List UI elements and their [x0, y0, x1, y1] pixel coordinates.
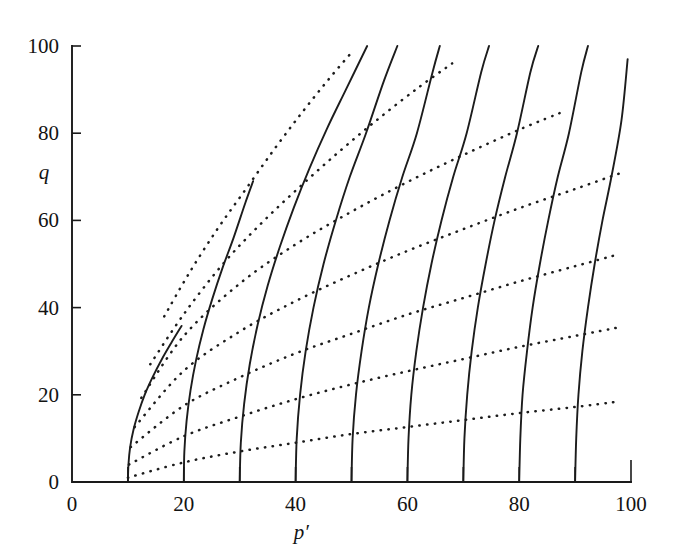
y-tick-label-100: 100: [28, 34, 60, 58]
x-tick-label-60: 60: [397, 492, 418, 516]
axis-lines: [72, 46, 631, 482]
x-tick-label-80: 80: [509, 492, 530, 516]
x-tick-label-40: 40: [285, 492, 306, 516]
stress-path-curve: [184, 181, 253, 482]
constant-volume-line: [129, 327, 620, 464]
y-axis-title: q: [39, 160, 50, 184]
series-layer: [128, 46, 628, 482]
y-tick-label-80: 80: [38, 121, 59, 145]
x-tick-label-100: 100: [615, 492, 647, 516]
axis-layer: [72, 46, 631, 482]
y-tick-label-20: 20: [38, 383, 59, 407]
y-tick-label-0: 0: [49, 470, 60, 494]
y-tick-label-40: 40: [38, 296, 59, 320]
x-axis-title: p′: [292, 520, 310, 544]
stress-path-curve: [240, 46, 367, 482]
constant-volume-line: [150, 63, 452, 364]
stress-path-curve: [575, 59, 628, 482]
stress-path-curve: [352, 46, 440, 482]
stress-path-chart: 020406080100020406080100p′q: [0, 0, 677, 560]
constant-volume-line: [128, 401, 620, 477]
constant-volume-line: [135, 173, 620, 427]
stress-path-curve: [463, 46, 538, 482]
stress-path-curve: [407, 46, 489, 482]
stress-path-curve: [296, 46, 398, 482]
axis-labels: 020406080100020406080100p′q: [28, 34, 647, 544]
constant-volume-line: [164, 53, 351, 317]
figure-root: 020406080100020406080100p′q: [0, 0, 677, 560]
y-tick-label-60: 60: [38, 208, 59, 232]
x-tick-label-20: 20: [173, 492, 194, 516]
constant-volume-line: [131, 254, 620, 447]
x-tick-label-0: 0: [67, 492, 78, 516]
